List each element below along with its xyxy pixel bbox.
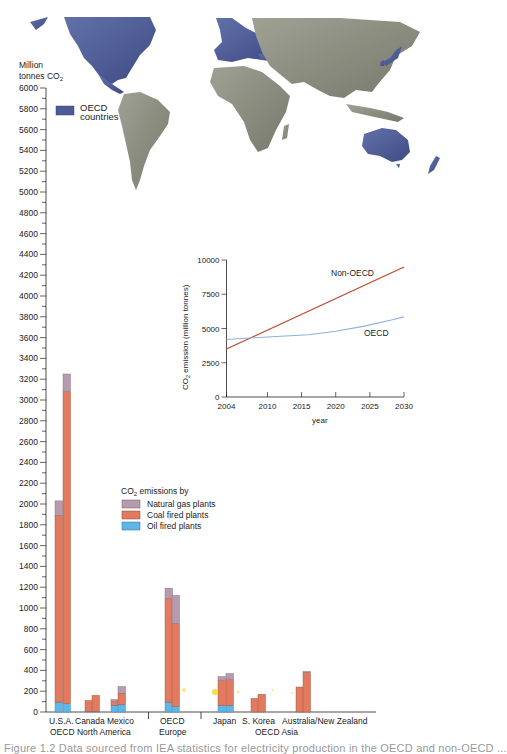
category-label-canada: Canada: [75, 716, 105, 726]
y-axis-unit-label: Million: [19, 60, 43, 70]
inset-x-tick-label: 2030: [395, 402, 413, 411]
y-tick-label: 1600: [19, 541, 38, 551]
bar-segment-oil: [55, 702, 63, 712]
map-madagascar: [282, 124, 289, 140]
bar-segment-oil: [118, 704, 126, 712]
bar-segment-coal: [303, 672, 311, 712]
bar-segment-coal: [296, 687, 304, 712]
bar-segment-coal: [218, 681, 226, 705]
inset-x-tick-label: 2020: [327, 402, 345, 411]
bar-segment-coal: [258, 694, 266, 712]
group-label-asia: OECD Asia: [255, 727, 298, 737]
y-tick-label: 3400: [19, 353, 38, 363]
y-tick-label: 2200: [19, 478, 38, 488]
bar-segment-coal: [165, 599, 173, 702]
inset-x-tick-label: 2015: [293, 402, 311, 411]
bar-segment-coal: [55, 515, 63, 702]
bar-segment-gas: [55, 501, 63, 516]
category-label-europe: OECD: [160, 716, 185, 726]
category-label-mexico: Mexico: [107, 716, 134, 726]
legend-swatch-coal: [122, 511, 140, 519]
inset-y-tick-label: 0: [215, 393, 220, 402]
category-labels: U.S.A. Canada Mexico OECD North America …: [49, 716, 368, 737]
inset-x-tick-label: 2004: [218, 402, 236, 411]
bar-segment-oil: [172, 706, 180, 712]
bar-segment-gas: [165, 588, 173, 598]
bar-segment-gas: [111, 700, 119, 702]
y-tick-label: 4600: [19, 229, 38, 239]
y-tick-label: 0: [33, 707, 38, 717]
bar-legend: CO2 emissions by Natural gas plants Coal…: [121, 486, 216, 531]
y-tick-label: 5400: [19, 145, 38, 155]
map-artifact-dot: [182, 688, 186, 692]
y-tick-label: 2400: [19, 457, 38, 467]
bar-segment-coal: [85, 701, 93, 712]
map-se-asia: [346, 104, 404, 122]
y-tick-label: 1800: [19, 520, 38, 530]
y-tick-label: 3200: [19, 374, 38, 384]
map-artifact-dot: [272, 689, 274, 691]
bar-segment-gas: [303, 671, 311, 672]
bar-segment-oil: [226, 705, 234, 712]
y-tick-label: 3800: [19, 312, 38, 322]
map-artifact-dot: [212, 689, 218, 695]
y-tick-label: 1000: [19, 603, 38, 613]
map-new-zealand: [428, 156, 440, 174]
map-south-america: [118, 92, 170, 190]
inset-x-tick-label: 2010: [259, 402, 277, 411]
category-label-japan: Japan: [213, 716, 236, 726]
bar-segment-coal: [172, 624, 180, 707]
map-alaska: [30, 17, 48, 30]
legend-title: CO2 emissions by: [121, 486, 189, 497]
y-tick-label: 3600: [19, 333, 38, 343]
map-artifact-dot: [291, 692, 293, 694]
inset-x-tick-label: 2025: [361, 402, 379, 411]
bar-segment-gas: [63, 374, 71, 392]
category-label-europe-2: Europe: [159, 727, 187, 737]
y-tick-label: 2600: [19, 437, 38, 447]
map-legend-swatch: [56, 106, 74, 115]
bar-segment-coal: [118, 693, 126, 704]
category-label-korea: S. Korea: [242, 716, 275, 726]
bars: [55, 374, 311, 712]
bar-segment-coal: [92, 695, 100, 711]
y-tick-label: 5200: [19, 166, 38, 176]
legend-label-coal: Coal fired plants: [147, 510, 208, 520]
bar-segment-gas: [226, 674, 234, 680]
bar-segment-gas: [118, 687, 126, 694]
bar-segment-oil: [63, 704, 71, 712]
y-axis-ticks: 0200400600800100012001400160018002000220…: [19, 83, 46, 717]
category-label-usa: U.S.A.: [49, 716, 74, 726]
y-tick-label: 2000: [19, 499, 38, 509]
y-tick-label: 5800: [19, 104, 38, 114]
legend-label-gas: Natural gas plants: [147, 499, 216, 509]
y-tick-label: 400: [24, 665, 38, 675]
y-axis-unit-label-2: tonnes CO2: [19, 71, 64, 82]
legend-swatch-gas: [122, 500, 140, 508]
y-tick-label: 4200: [19, 270, 38, 280]
inset-y-tick-label: 10000: [197, 256, 220, 265]
y-tick-label: 5600: [19, 125, 38, 135]
map-australia: [362, 128, 410, 162]
y-tick-label: 800: [24, 624, 38, 634]
inset-chart: 025005000750010000 200420102015202020252…: [181, 250, 436, 425]
inset-series-label-non-oecd: Non-OECD: [331, 268, 374, 278]
map-tasmania: [396, 164, 400, 168]
inset-y-label: CO2 emission (million tonnes): [181, 284, 191, 390]
legend-label-oil: Oil fired plants: [147, 521, 201, 531]
bar-segment-coal: [251, 698, 259, 712]
inset-x-label: year: [312, 416, 328, 425]
y-tick-label: 4400: [19, 249, 38, 259]
map-legend-label-2: countries: [80, 111, 119, 122]
y-tick-label: 4000: [19, 291, 38, 301]
y-tick-label: 5000: [19, 187, 38, 197]
bar-segment-oil: [218, 705, 226, 712]
y-tick-label: 2800: [19, 416, 38, 426]
y-tick-label: 1400: [19, 561, 38, 571]
bar-segment-coal: [111, 702, 119, 706]
bar-segment-coal: [63, 392, 71, 704]
inset-y-tick-label: 5000: [202, 325, 220, 334]
inset-series-label-oecd: OECD: [364, 328, 389, 338]
y-tick-label: 6000: [19, 83, 38, 93]
map-north-america-oecd: [64, 17, 156, 84]
